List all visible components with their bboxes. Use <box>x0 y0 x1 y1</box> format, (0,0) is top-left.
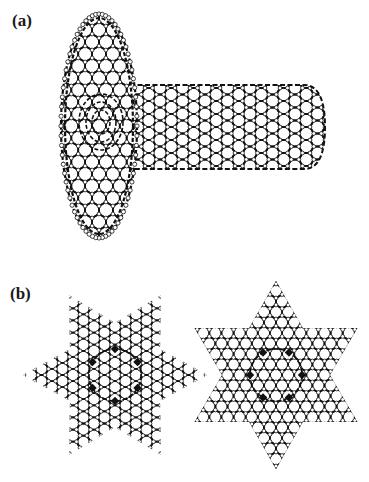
nanotube-structure <box>117 73 338 181</box>
star-flake-left <box>22 294 208 455</box>
star-flake-right <box>183 272 369 479</box>
figure-canvas <box>0 0 369 482</box>
cage-structure <box>49 8 150 244</box>
